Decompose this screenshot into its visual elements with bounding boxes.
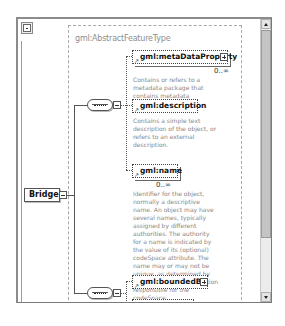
expand-icon[interactable] <box>200 278 208 286</box>
arrow-up-icon <box>264 23 268 26</box>
root-element-bridge[interactable]: Bridge <box>24 188 60 202</box>
connector-line <box>74 105 88 106</box>
diagram-viewport: gml:AbstractFeatureType Bridge ↗ gml:met… <box>16 17 272 303</box>
complex-type-label: gml:AbstractFeatureType <box>75 34 170 43</box>
divider <box>21 41 22 303</box>
connector-line <box>126 56 127 170</box>
scroll-thumb[interactable] <box>261 30 271 238</box>
multiplicity: 0..∞ <box>156 181 171 189</box>
vertical-scrollbar[interactable] <box>260 19 271 302</box>
element-name[interactable]: ↗ gml:name <box>132 164 178 178</box>
sequence-compositor-2[interactable] <box>87 287 113 299</box>
collapse-icon <box>23 24 31 32</box>
collapse-sequence-icon[interactable] <box>113 101 121 109</box>
scroll-down-button[interactable] <box>261 292 271 302</box>
reference-arrow-icon: ↗ <box>134 280 139 292</box>
collapse-diagram-button[interactable] <box>21 22 33 34</box>
element-metadataproperty[interactable]: ↗ gml:metaDataProperty <box>132 50 228 64</box>
expand-icon[interactable] <box>186 302 194 303</box>
element-label: gml:name <box>140 166 182 175</box>
documentation: Contains a simple text description of th… <box>133 117 217 149</box>
connector-line <box>126 281 127 303</box>
connector-line <box>74 293 88 294</box>
expand-icon[interactable] <box>220 53 228 61</box>
element-location[interactable]: ↗ gml:location <box>132 299 194 303</box>
element-description[interactable]: ↗ gml:description <box>132 99 198 113</box>
sequence-icon <box>94 293 106 295</box>
sequence-compositor-1[interactable] <box>87 99 113 111</box>
reference-arrow-icon: ↗ <box>134 169 139 181</box>
scroll-up-button[interactable] <box>261 19 271 29</box>
element-label: gml:location <box>140 301 193 303</box>
collapse-sequence-icon[interactable] <box>113 289 121 297</box>
reference-arrow-icon: ↗ <box>134 104 139 116</box>
connector-trunk <box>74 105 75 293</box>
reference-arrow-icon: ↗ <box>134 55 139 67</box>
element-label: gml:boundedBy <box>140 277 206 286</box>
element-boundedby[interactable]: ↗ gml:boundedBy <box>132 275 208 289</box>
arrow-down-icon <box>264 296 268 299</box>
root-element-label: Bridge <box>29 190 59 199</box>
sequence-icon <box>94 105 106 107</box>
element-label: gml:description <box>140 101 206 110</box>
multiplicity: 0..∞ <box>214 67 229 75</box>
collapse-root-icon[interactable] <box>59 191 67 199</box>
